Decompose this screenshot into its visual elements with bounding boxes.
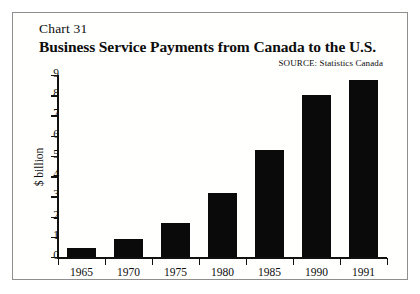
x-axis-tick-label: 1965: [55, 266, 109, 278]
chart-figure: Chart 31 Business Service Payments from …: [12, 12, 408, 280]
y-axis-tick-mark: [51, 136, 57, 137]
y-axis-tick-label: 3: [35, 188, 59, 200]
x-axis-tick-mark: [387, 258, 388, 265]
bar: [67, 248, 96, 257]
x-axis-line: [57, 257, 387, 259]
y-axis-tick-mark: [51, 95, 57, 96]
x-axis-tick-mark: [199, 258, 200, 265]
bar: [255, 150, 284, 257]
bar: [349, 80, 378, 257]
bar-slot: [161, 75, 190, 257]
y-axis-tick-label: 8: [35, 87, 59, 99]
bar: [208, 193, 237, 257]
y-axis-tick-mark: [51, 217, 57, 218]
y-axis-tick-label: 9: [35, 67, 59, 79]
y-axis-tick-mark: [51, 75, 57, 76]
y-axis-tick-mark: [51, 176, 57, 177]
x-axis-tick-label: 1991: [337, 266, 391, 278]
y-axis-tick-label: 1: [35, 229, 59, 241]
bar: [161, 223, 190, 257]
plot-area: $ billion 0123456789 1965197019751980198…: [13, 13, 409, 281]
bar: [114, 239, 143, 257]
y-axis-tick-label: 0: [35, 249, 59, 261]
x-axis-tick-mark: [58, 258, 59, 265]
x-axis-tick-mark: [246, 258, 247, 265]
x-axis-tick-label: 1970: [102, 266, 156, 278]
bar-slot: [255, 75, 284, 257]
x-axis-tick-mark: [152, 258, 153, 265]
y-axis-tick-mark: [51, 196, 57, 197]
bar-slot: [349, 75, 378, 257]
y-axis-tick-label: 5: [35, 148, 59, 160]
bar-series: [58, 75, 387, 257]
y-axis-tick-mark: [51, 237, 57, 238]
x-axis-tick-label: 1985: [243, 266, 297, 278]
y-axis-tick-label: 6: [35, 128, 59, 140]
y-axis-tick-mark: [51, 115, 57, 116]
x-axis-tick-mark: [340, 258, 341, 265]
x-axis-tick-label: 1975: [149, 266, 203, 278]
bar-slot: [67, 75, 96, 257]
bar: [302, 95, 331, 257]
y-axis-tick-mark: [51, 156, 57, 157]
y-axis-tick-label: 7: [35, 107, 59, 119]
x-axis-tick-label: 1990: [290, 266, 344, 278]
bar-slot: [114, 75, 143, 257]
x-axis-tick-mark: [293, 258, 294, 265]
x-axis-tick-mark: [105, 258, 106, 265]
bar-slot: [208, 75, 237, 257]
x-axis-tick-label: 1980: [196, 266, 250, 278]
bar-slot: [302, 75, 331, 257]
y-axis-tick-label: 4: [35, 168, 59, 180]
y-axis-tick-label: 2: [35, 209, 59, 221]
y-axis-tick-mark: [51, 257, 57, 258]
